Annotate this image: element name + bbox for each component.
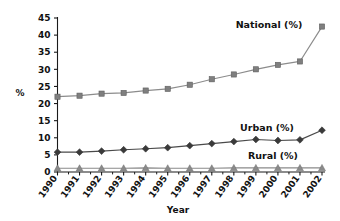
y-axis-title: % <box>15 88 24 98</box>
data-point-marker <box>165 86 170 91</box>
y-axis-tick-label: 10 <box>38 133 51 143</box>
y-axis-tick-label: 20 <box>38 99 51 109</box>
data-point-marker <box>275 62 280 67</box>
series-label-urban: Urban (%) <box>240 122 294 133</box>
data-point-marker <box>231 72 236 77</box>
y-axis-tick-label: 45 <box>38 13 51 23</box>
y-axis-tick-label: 25 <box>38 82 51 92</box>
data-point-marker <box>77 93 82 98</box>
data-point-marker <box>121 90 126 95</box>
chart-canvas: 051015202530354045 199019911992199319941… <box>0 0 340 221</box>
data-point-marker <box>253 67 258 72</box>
data-point-marker <box>319 24 324 29</box>
y-axis-tick-label: 15 <box>38 116 51 126</box>
series-label-national: National (%) <box>236 19 303 30</box>
x-axis-title: Year <box>166 205 190 215</box>
y-axis-tick-label: 35 <box>38 47 51 57</box>
data-point-marker <box>209 77 214 82</box>
data-point-marker <box>55 94 60 99</box>
y-axis-tick-label: 5 <box>44 150 50 160</box>
y-axis-tick-label: 30 <box>38 65 51 75</box>
y-axis-tick-label: 40 <box>38 30 51 40</box>
data-point-marker <box>143 88 148 93</box>
data-point-marker <box>187 82 192 87</box>
line-chart: 051015202530354045 199019911992199319941… <box>0 0 340 221</box>
series-label-rural: Rural (%) <box>248 150 298 161</box>
data-point-marker <box>99 91 104 96</box>
data-point-marker <box>297 59 302 64</box>
